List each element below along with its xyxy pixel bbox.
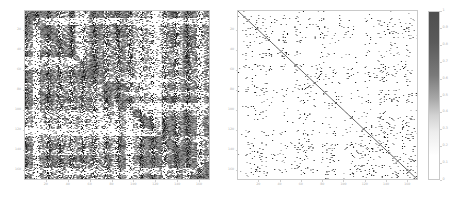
colorbar-tick-label: 0.8: [443, 43, 448, 47]
y-tickmark: [23, 130, 25, 131]
colorbar-tick-label: 0.4: [443, 111, 448, 115]
y-tick-label: 120: [225, 128, 234, 131]
y-tick-label: 80: [12, 88, 21, 91]
colorbar-tick-label: 0.2: [443, 144, 448, 148]
colorbar-gradient: [429, 12, 439, 179]
y-tickmark: [23, 90, 25, 91]
colorbar-tick-label: 0: [443, 178, 445, 182]
y-tickmark: [236, 150, 238, 151]
colorbar-tick-label: 0.6: [443, 77, 448, 81]
right-matrix-image: [238, 11, 418, 180]
y-tickmark: [236, 70, 238, 71]
y-tick-label: 140: [12, 148, 21, 151]
left-matrix-axes: [24, 10, 210, 180]
x-tick-label: 120: [152, 183, 158, 186]
colorbar-tickmark: [440, 112, 442, 113]
y-tickmark: [23, 70, 25, 71]
x-tick-label: 100: [130, 183, 136, 186]
colorbar-tickmark: [440, 180, 442, 181]
y-tick-label: 60: [225, 68, 234, 71]
y-tick-label: 140: [225, 148, 234, 151]
right-heatmap-panel: 20406080100120140160 2040608010012014016…: [224, 0, 468, 204]
y-tickmark: [236, 90, 238, 91]
y-tickmark: [23, 50, 25, 51]
left-matrix-image: [25, 11, 210, 180]
colorbar-tickmark: [440, 79, 442, 80]
y-tick-label: 160: [12, 168, 21, 171]
matrix-comparison-figure: 20406080100120140160 2040608010012014016…: [0, 0, 468, 204]
y-tick-label: 100: [225, 108, 234, 111]
x-tick-label: 160: [196, 183, 202, 186]
x-tick-label: 20: [44, 183, 48, 186]
x-tick-label: 100: [340, 183, 346, 186]
colorbar-tick-label: 0.9: [443, 26, 448, 30]
colorbar-tickmark: [440, 62, 442, 63]
y-tickmark: [23, 110, 25, 111]
colorbar-tick-label: 1: [443, 9, 445, 13]
colorbar-tick-label: 0.3: [443, 128, 448, 132]
y-tick-label: 20: [12, 28, 21, 31]
y-tickmark: [23, 170, 25, 171]
y-tick-label: 60: [12, 68, 21, 71]
colorbar-tick-label: 0.5: [443, 94, 448, 98]
y-tickmark: [23, 150, 25, 151]
y-tickmark: [236, 30, 238, 31]
y-tick-label: 100: [12, 108, 21, 111]
y-tickmark: [236, 130, 238, 131]
colorbar-tick-label: 0.7: [443, 60, 448, 64]
colorbar-tickmark: [440, 129, 442, 130]
colorbar-tickmark: [440, 96, 442, 97]
x-tick-label: 120: [362, 183, 368, 186]
x-tick-label: 140: [383, 183, 389, 186]
x-tick-label: 80: [109, 183, 113, 186]
colorbar-tickmark: [440, 146, 442, 147]
y-tick-label: 40: [12, 48, 21, 51]
y-tick-label: 80: [225, 88, 234, 91]
x-tick-label: 60: [299, 183, 303, 186]
x-tick-label: 80: [320, 183, 324, 186]
y-tick-label: 120: [12, 128, 21, 131]
colorbar-tickmark: [440, 28, 442, 29]
x-tick-label: 60: [88, 183, 92, 186]
y-tick-label: 40: [225, 48, 234, 51]
colorbar-axes: [428, 11, 440, 180]
y-tickmark: [236, 110, 238, 111]
colorbar-tickmark: [440, 163, 442, 164]
colorbar-tick-label: 0.1: [443, 161, 448, 165]
colorbar-tickmark: [440, 45, 442, 46]
y-tick-label: 160: [225, 168, 234, 171]
y-tick-label: 20: [225, 28, 234, 31]
y-tickmark: [23, 30, 25, 31]
y-tickmark: [236, 50, 238, 51]
x-tick-label: 40: [278, 183, 282, 186]
colorbar-tickmark: [440, 11, 442, 12]
right-matrix-axes: [237, 10, 418, 180]
x-tick-label: 40: [66, 183, 70, 186]
x-tick-label: 160: [404, 183, 410, 186]
x-tick-label: 20: [256, 183, 260, 186]
left-heatmap-panel: 20406080100120140160 2040608010012014016…: [0, 0, 224, 204]
y-tickmark: [236, 170, 238, 171]
x-tick-label: 140: [174, 183, 180, 186]
